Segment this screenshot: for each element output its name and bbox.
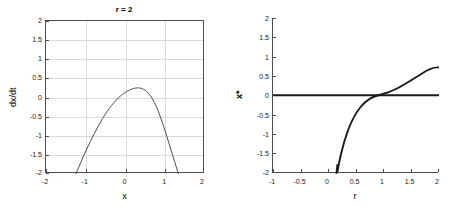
xtick-label: 0 — [325, 178, 329, 185]
phase-plot-curve — [46, 21, 205, 174]
ytick-label: 1.5 — [26, 36, 42, 43]
ytick-label: 2 — [26, 17, 42, 24]
phase-plot-ylabel: dx/dt — [8, 62, 18, 132]
ytick-label: 0.5 — [26, 74, 42, 81]
xtick-label: -1 — [82, 178, 88, 185]
ytick-label: 2 — [253, 15, 269, 22]
bifurcation-axes — [272, 18, 438, 173]
phase-plot-axes — [45, 20, 204, 173]
ytick-label: 1 — [26, 55, 42, 62]
xtick-label: 1.5 — [405, 178, 415, 185]
xtick-label: 2 — [200, 178, 204, 185]
ytick-label: -2 — [253, 169, 269, 176]
xtick-label: 2 — [435, 178, 439, 185]
xtick-label: -1 — [269, 178, 275, 185]
ytick-label: 0 — [26, 93, 42, 100]
ytick-label: -1.5 — [253, 150, 269, 157]
figure-canvas: r = 2 — [0, 0, 460, 209]
ytick-label: 1.5 — [253, 34, 269, 41]
xtick-label: 1 — [380, 178, 384, 185]
phase-plot-panel: r = 2 — [0, 0, 230, 209]
ytick-label: 1 — [253, 53, 269, 60]
bifurcation-xlabel: r — [354, 191, 357, 201]
bifurcation-diagram-panel: 2 1.5 1 0.5 0 -0.5 -1 -1.5 -2 -1 -0.5 0 … — [230, 0, 460, 209]
xtick-label: -0.5 — [293, 178, 305, 185]
bifurcation-ylabel: x* — [234, 82, 244, 108]
ytick-label: -0.5 — [253, 111, 269, 118]
ytick-label: -0.5 — [26, 112, 42, 119]
branch-tail-dotted — [336, 165, 337, 173]
ytick-label: -1.5 — [26, 150, 42, 157]
xtick-label: -2 — [42, 178, 48, 185]
xtick-label: 1 — [162, 178, 166, 185]
xtick-label: 0 — [123, 178, 127, 185]
ytick-label: -1 — [253, 130, 269, 137]
nontrivial-branch — [337, 67, 439, 173]
phase-plot-xlabel: x — [122, 191, 127, 201]
ytick-label: 0.5 — [253, 72, 269, 79]
ytick-label: -1 — [26, 131, 42, 138]
ytick-label: -2 — [26, 169, 42, 176]
phase-plot-title: r = 2 — [116, 5, 133, 14]
xtick-label: 0.5 — [350, 178, 360, 185]
bifurcation-curves — [273, 18, 439, 173]
ytick-label: 0 — [253, 92, 269, 99]
